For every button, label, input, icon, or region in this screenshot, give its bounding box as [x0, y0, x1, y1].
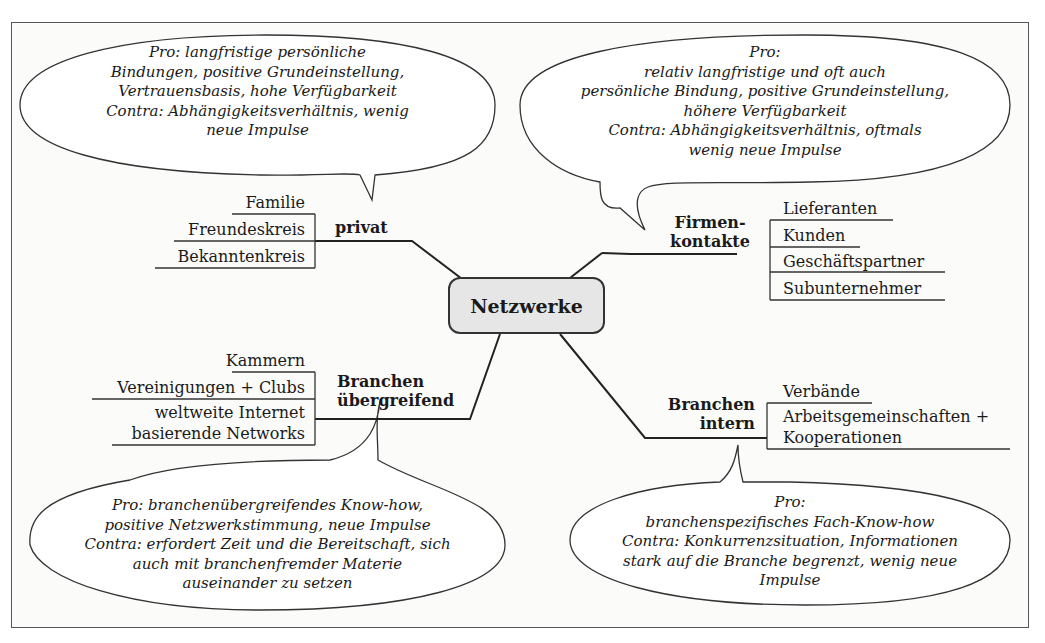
bubble-line: Contra: erfordert Zeit und die Bereitsch… [30, 535, 505, 555]
branch-label-line: intern [655, 414, 755, 433]
bubble-line: Contra: Konkurrenzsituation, Information… [570, 532, 1010, 552]
bubble-text-privat: Pro: langfristige persönliche Bindungen,… [20, 43, 495, 141]
bubble-line: Contra: Abhängigkeitsverhältnis, wenig [20, 102, 495, 122]
bubble-text-firmen: Pro: relativ langfristige und oft auch p… [520, 43, 1010, 160]
item-lieferanten: Lieferanten [783, 199, 877, 219]
branch-label-uebergreifend: Branchen übergreifend [337, 372, 454, 410]
branch-label-line: Firmen- [660, 213, 760, 232]
branch-label-privat: privat [335, 218, 388, 237]
bubble-line: persönliche Bindung, positive Grundeinst… [520, 82, 1010, 102]
bubble-line: auch mit branchenfremder Materie [30, 555, 505, 575]
item-verbaende: Verbände [783, 382, 860, 402]
bubble-line: auseinander zu setzen [30, 574, 505, 594]
bubble-line: Pro: langfristige persönliche [20, 43, 495, 63]
bubble-line: stark auf die Branche begrenzt, wenig ne… [570, 552, 1010, 572]
item-bekanntenkreis: Bekanntenkreis [140, 247, 305, 267]
item-internet-networks-1: weltweite Internet [80, 403, 305, 423]
bubble-line: Contra: Abhängigkeitsverhältnis, oftmals [520, 121, 1010, 141]
bubble-line: neue Impulse [20, 121, 495, 141]
branch-label-line: Branchen [655, 395, 755, 414]
branch-label-line: Branchen [337, 372, 454, 391]
bubble-line: branchenspezifisches Fach-Know-how [570, 513, 1010, 533]
bubble-line: positive Netzwerkstimmung, neue Impulse [30, 516, 505, 536]
item-geschaeftspartner: Geschäftspartner [783, 252, 924, 272]
bubble-line: Bindungen, positive Grundeinstellung, [20, 63, 495, 83]
item-familie: Familie [150, 193, 305, 213]
item-arbeitsgemeinschaften: Arbeitsgemeinschaften + [783, 407, 989, 427]
branch-label-firmenkontakte: Firmen- kontakte [660, 213, 760, 251]
item-kunden: Kunden [783, 226, 845, 246]
bubble-line: Pro: [570, 493, 1010, 513]
bubble-line: Vertrauensbasis, hohe Verfügbarkeit [20, 82, 495, 102]
bubble-line: höhere Verfügbarkeit [520, 102, 1010, 122]
bubble-text-uebergreifend: Pro: branchenübergreifendes Know-how, po… [30, 496, 505, 594]
bubble-line: relativ langfristige und oft auch [520, 63, 1010, 83]
item-kammern: Kammern [80, 351, 305, 371]
branch-label-line: kontakte [660, 232, 760, 251]
branch-label-intern: Branchen intern [655, 395, 755, 433]
item-freundeskreis: Freundeskreis [150, 220, 305, 240]
bubble-text-intern: Pro: branchenspezifisches Fach-Know-how … [570, 493, 1010, 591]
bubble-line: wenig neue Impulse [520, 141, 1010, 161]
item-kooperationen: Kooperationen [783, 428, 902, 448]
item-subunternehmer: Subunternehmer [783, 279, 921, 299]
item-internet-networks-2: basierende Networks [80, 424, 305, 444]
branch-label-line: übergreifend [337, 391, 454, 410]
bubble-line: Pro: [520, 43, 1010, 63]
item-vereinigungen: Vereinigungen + Clubs [80, 378, 305, 398]
bubble-line: Impulse [570, 571, 1010, 591]
center-node: Netzwerke [448, 277, 605, 334]
bubble-line: Pro: branchenübergreifendes Know-how, [30, 496, 505, 516]
